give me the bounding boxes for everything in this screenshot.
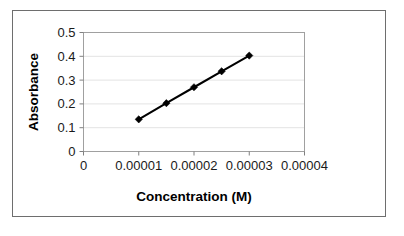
x-tick-label: 0.00002 bbox=[171, 158, 218, 173]
y-tick-label: 0.5 bbox=[57, 25, 75, 40]
y-tick-label: 0.3 bbox=[57, 73, 75, 88]
y-tick-label: 0 bbox=[68, 144, 75, 159]
x-tick-label: 0.00003 bbox=[226, 158, 273, 173]
y-axis-ticks bbox=[80, 33, 84, 152]
y-axis-tick-labels: 00.10.20.30.40.5 bbox=[57, 25, 75, 159]
x-axis-title: Concentration (M) bbox=[136, 189, 252, 204]
x-axis-tick-labels: 00.000010.000020.000030.00004 bbox=[80, 158, 328, 173]
y-tick-label: 0.4 bbox=[57, 49, 75, 64]
x-tick-label: 0 bbox=[80, 158, 87, 173]
x-tick-label: 0.00001 bbox=[115, 158, 162, 173]
y-tick-label: 0.1 bbox=[57, 120, 75, 135]
plot-area-border bbox=[84, 33, 305, 152]
x-tick-label: 0.00004 bbox=[281, 158, 328, 173]
y-axis-title: Absorbance bbox=[26, 53, 41, 132]
absorbance-vs-concentration-chart: 00.10.20.30.40.5 00.000010.000020.000030… bbox=[0, 0, 404, 236]
x-axis-ticks bbox=[84, 152, 305, 156]
y-tick-label: 0.2 bbox=[57, 96, 75, 111]
plot-gridlines bbox=[84, 33, 305, 128]
